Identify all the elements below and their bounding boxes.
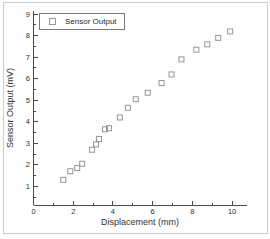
data-point-marker: [169, 72, 174, 77]
data-point-marker: [94, 142, 99, 147]
data-point-marker: [179, 57, 184, 62]
data-point-marker: [80, 161, 85, 166]
y-tick-label: 9: [26, 10, 30, 19]
y-tick-label: 4: [26, 117, 30, 126]
y-tick-label: 8: [26, 31, 30, 40]
legend-box: Sensor Output: [39, 13, 125, 30]
data-point-marker: [194, 47, 199, 52]
legend-square-marker-icon: [49, 18, 56, 25]
legend-series-label: Sensor Output: [65, 18, 117, 26]
y-tick-label: 1: [26, 182, 30, 191]
y-tick-label: 6: [26, 74, 30, 83]
data-point-marker: [145, 90, 150, 95]
data-point-marker: [75, 166, 80, 171]
data-point-marker: [133, 97, 138, 102]
data-point-marker: [61, 177, 66, 182]
x-tick-label: 0: [31, 207, 35, 216]
y-tick-label: 7: [26, 53, 30, 62]
data-point-marker: [216, 35, 221, 40]
figure: 0246810123456789 Sensor Output Displacem…: [0, 0, 270, 239]
data-point-marker: [205, 42, 210, 47]
x-axis-title: Displacement (mm): [33, 217, 247, 227]
y-tick-label: 3: [26, 139, 30, 148]
data-point-marker: [68, 169, 73, 174]
x-tick-label: 4: [111, 207, 115, 216]
x-tick-label: 10: [228, 207, 236, 216]
y-tick-label: 5: [26, 96, 30, 105]
data-point-marker: [125, 105, 130, 110]
data-point-marker: [90, 147, 95, 152]
x-tick-label: 2: [71, 207, 75, 216]
x-tick-label: 8: [190, 207, 194, 216]
data-point-marker: [228, 29, 233, 34]
y-axis-title: Sensor Output (mV): [5, 68, 15, 148]
x-tick-label: 6: [151, 207, 155, 216]
data-point-marker: [117, 115, 122, 120]
y-tick-label: 2: [26, 160, 30, 169]
data-point-marker: [159, 81, 164, 86]
data-point-marker: [97, 136, 102, 141]
scatter-plot-canvas: 0246810123456789: [0, 0, 270, 239]
